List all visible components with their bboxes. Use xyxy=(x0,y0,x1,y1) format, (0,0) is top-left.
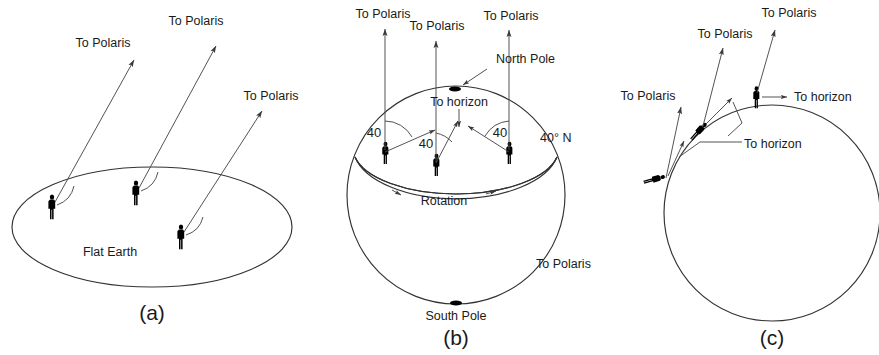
panel-label-b: (b) xyxy=(443,326,469,349)
horizon-label-c-1: To horizon xyxy=(794,90,852,104)
observer-c-3 xyxy=(643,173,666,185)
polaris-label-c-1: To Polaris xyxy=(762,6,817,20)
latitude-back-arc-b xyxy=(355,157,557,194)
horizon-line-b-2 xyxy=(436,121,458,163)
polaris-line-c-2 xyxy=(703,48,723,126)
horizon-label-b: To horizon xyxy=(430,95,488,109)
observer-a-3 xyxy=(177,224,184,249)
panel-label-a: (a) xyxy=(139,301,165,324)
horizon-label-c-2: To horizon xyxy=(744,137,802,151)
panel-a: To Polaris To Polaris To Polaris Flat Ea… xyxy=(12,14,298,324)
angle-arc-b-1 xyxy=(385,121,412,137)
north-pole-marker xyxy=(449,86,461,91)
sightline-a-1 xyxy=(55,60,134,202)
polaris-label-b-1: To Polaris xyxy=(356,7,411,21)
figure-canvas: To Polaris To Polaris To Polaris Flat Ea… xyxy=(0,0,879,355)
south-pole-label: South Pole xyxy=(425,309,486,323)
horizon-leader-c-2 xyxy=(728,102,742,136)
figure-container: To Polaris To Polaris To Polaris Flat Ea… xyxy=(0,0,879,355)
observer-a-1 xyxy=(48,194,55,219)
horizon-line-c-2 xyxy=(706,98,732,124)
sightline-a-3 xyxy=(184,111,262,232)
angle-arc-a-3 xyxy=(186,217,203,235)
angle-label-b-3: 40 xyxy=(493,125,507,140)
rotation-label-b: Rotation xyxy=(421,194,468,208)
polaris-label-b-2: To Polaris xyxy=(410,19,465,33)
panel-c: To horizon To Polaris To horizon To Pola… xyxy=(621,6,879,349)
polaris-label-a-1: To Polaris xyxy=(76,36,131,50)
north-pole-label: North Pole xyxy=(496,52,555,66)
latitude-label-b: 40° N xyxy=(540,131,571,145)
polaris-label-a-3: To Polaris xyxy=(244,89,299,103)
panel-label-c: (c) xyxy=(760,326,785,349)
observer-a-2 xyxy=(132,180,139,205)
panel-b: 40 40 40 To Polaris To Polaris To Polari… xyxy=(347,7,591,349)
polaris-line-c-1 xyxy=(757,30,775,93)
south-pole-marker xyxy=(450,301,462,306)
observer-c-2 xyxy=(689,121,708,141)
angle-arc-a-2 xyxy=(141,172,158,191)
angle-label-b-2: 40 xyxy=(419,136,433,151)
north-pole-leader xyxy=(463,69,487,85)
polaris-label-c-2: To Polaris xyxy=(698,27,753,41)
polaris-label-b-3: To Polaris xyxy=(484,9,539,23)
angle-arc-a-1 xyxy=(57,186,74,205)
polaris-label-b-4: To Polaris xyxy=(536,257,591,271)
latitude-front-arc-b xyxy=(355,157,557,199)
flat-earth-ellipse xyxy=(12,167,292,287)
polaris-label-a-2: To Polaris xyxy=(169,14,224,28)
angle-label-b-1: 40 xyxy=(367,125,381,140)
polaris-label-c-3: To Polaris xyxy=(621,89,676,103)
flat-earth-label: Flat Earth xyxy=(83,245,137,259)
sightline-a-2 xyxy=(139,46,216,188)
